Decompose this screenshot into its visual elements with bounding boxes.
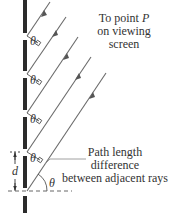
d-label: d xyxy=(11,164,19,179)
point-p: P xyxy=(142,11,149,25)
theta-label-1: θ xyxy=(30,34,36,49)
slit-barrier xyxy=(23,0,27,213)
path-label-line3: between adjacent rays xyxy=(62,172,168,185)
path-difference-label: Path length difference between adjacent … xyxy=(62,146,168,185)
angle-arc xyxy=(38,174,47,191)
theta-label-3: θ xyxy=(30,112,36,127)
theta-label-4: θ xyxy=(30,151,36,166)
screen-label-line3: screen xyxy=(84,38,164,51)
screen-label: To point P on viewing screen xyxy=(84,12,164,51)
theta-label-angle: θ xyxy=(49,176,55,191)
theta-label-2: θ xyxy=(30,73,36,88)
screen-label-line1: To point xyxy=(99,11,142,25)
